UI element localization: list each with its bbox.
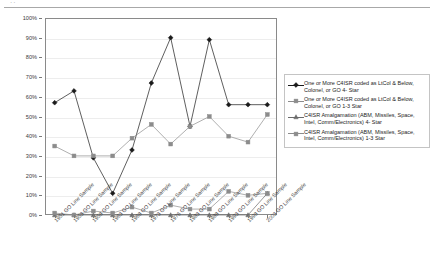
data-point-square bbox=[265, 113, 269, 117]
data-point-diamond bbox=[265, 102, 270, 107]
data-point-square bbox=[188, 124, 192, 128]
data-point-square bbox=[227, 134, 231, 138]
legend-item[interactable]: One or More C4ISR coded as LtCol & Below… bbox=[288, 96, 425, 109]
series-1 bbox=[53, 113, 269, 158]
legend-glyph bbox=[293, 114, 301, 122]
data-point-triangle bbox=[294, 115, 298, 119]
y-tick-label: 70% bbox=[26, 74, 37, 80]
legend-marker-square-icon bbox=[288, 97, 304, 105]
y-tick-label: 80% bbox=[26, 54, 37, 60]
legend-label: C4ISR Amalgamation (ABM, Missiles, Space… bbox=[304, 112, 425, 125]
legend-label: C4ISR Amalgamation (ABM, Missiles, Space… bbox=[304, 129, 425, 142]
page-top-fragment: .. bbox=[10, 0, 16, 5]
data-point-diamond bbox=[207, 37, 212, 42]
data-point-square bbox=[294, 132, 298, 136]
y-tick-mark bbox=[39, 18, 42, 19]
legend-glyph bbox=[293, 82, 301, 90]
data-point-diamond bbox=[294, 83, 299, 88]
data-point-square bbox=[130, 136, 134, 140]
y-tick-mark bbox=[39, 117, 42, 118]
y-tick-label: 40% bbox=[26, 133, 37, 139]
legend-marker-diamond-icon bbox=[288, 81, 304, 89]
data-point-diamond bbox=[130, 148, 135, 153]
legend-glyph bbox=[293, 98, 301, 106]
y-tick-label: 50% bbox=[26, 114, 37, 120]
y-tick-mark bbox=[39, 156, 42, 157]
y-tick-label: 20% bbox=[26, 173, 37, 179]
y-tick-mark bbox=[39, 215, 42, 216]
data-point-diamond bbox=[168, 35, 173, 40]
header-rule bbox=[4, 7, 430, 8]
legend-glyph bbox=[293, 131, 301, 139]
legend-marker-triangle-icon bbox=[288, 113, 304, 121]
y-tick-mark bbox=[39, 57, 42, 58]
line-chart: 0%10%20%30%40%50%60%70%80%90%100% 1951 G… bbox=[0, 10, 434, 276]
y-tick-label: 60% bbox=[26, 94, 37, 100]
y-tick-mark bbox=[39, 77, 42, 78]
legend-label: One or More C4ISR coded as LtCol & Below… bbox=[304, 80, 425, 93]
y-tick-mark bbox=[39, 97, 42, 98]
series-line bbox=[55, 38, 268, 194]
legend-item[interactable]: C4ISR Amalgamation (ABM, Missiles, Space… bbox=[288, 129, 425, 142]
data-point-square bbox=[246, 140, 250, 144]
chart-legend: One or More C4ISR coded as LtCol & Below… bbox=[284, 74, 430, 148]
data-point-square bbox=[149, 122, 153, 126]
y-tick-label: 90% bbox=[26, 35, 37, 41]
y-axis: 0%10%20%30%40%50%60%70%80%90%100% bbox=[0, 18, 42, 215]
data-point-square bbox=[53, 144, 57, 148]
legend-label: One or More C4ISR coded as LtCol & Below… bbox=[304, 96, 425, 109]
data-point-square bbox=[169, 142, 173, 146]
data-point-diamond bbox=[149, 81, 154, 86]
data-point-diamond bbox=[226, 102, 231, 107]
y-tick-mark bbox=[39, 136, 42, 137]
y-tick-label: 0% bbox=[29, 212, 37, 218]
y-tick-label: 10% bbox=[26, 192, 37, 198]
series-0 bbox=[52, 35, 269, 195]
x-axis: 1951 GO Line Sample1953 GO Line Sample19… bbox=[45, 215, 277, 276]
legend-marker-square-icon bbox=[288, 130, 304, 138]
data-point-diamond bbox=[52, 100, 57, 105]
data-point-square bbox=[111, 154, 115, 158]
y-tick-mark bbox=[39, 195, 42, 196]
data-point-square bbox=[294, 99, 298, 103]
y-tick-label: 100% bbox=[23, 15, 37, 21]
y-tick-label: 30% bbox=[26, 153, 37, 159]
data-point-square bbox=[207, 207, 211, 211]
data-point-square bbox=[207, 115, 211, 119]
data-point-square bbox=[91, 154, 95, 158]
data-point-square bbox=[227, 189, 231, 193]
data-point-square bbox=[91, 209, 95, 213]
y-tick-mark bbox=[39, 38, 42, 39]
legend-item[interactable]: One or More C4ISR coded as LtCol & Below… bbox=[288, 80, 425, 93]
y-tick-mark bbox=[39, 176, 42, 177]
data-point-square bbox=[72, 154, 76, 158]
data-point-diamond bbox=[72, 88, 77, 93]
data-point-diamond bbox=[246, 102, 251, 107]
legend-item[interactable]: C4ISR Amalgamation (ABM, Missiles, Space… bbox=[288, 112, 425, 125]
